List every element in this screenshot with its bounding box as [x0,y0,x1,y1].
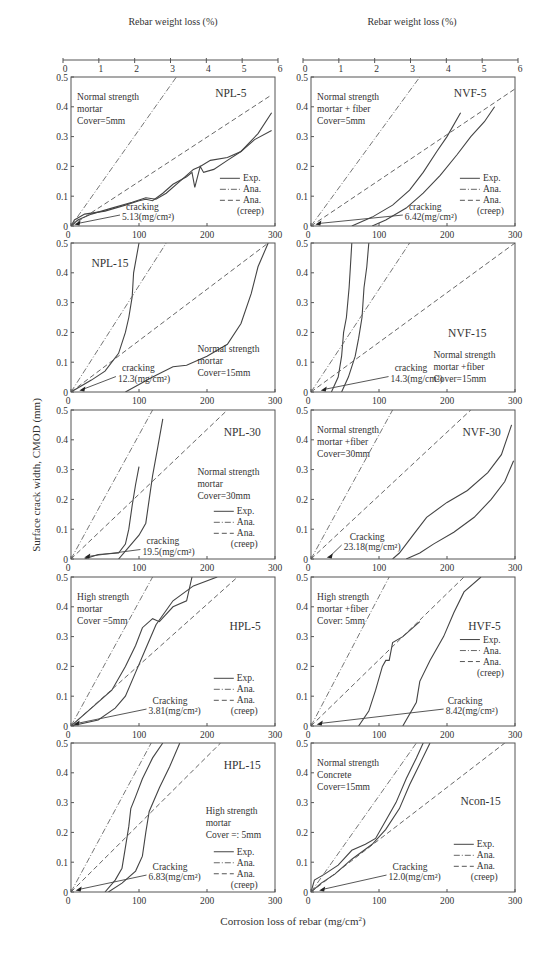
panel-description-line: Cover=5mm [317,116,366,126]
x-tick-label: 300 [268,730,283,740]
cracking-value: 3.81(mg/cm²) [149,706,201,717]
top-axis-tick-label: 6 [278,64,283,74]
x-tick-label: 100 [372,230,387,240]
panel-title: HPL-5 [229,620,261,632]
cracking-label: cracking [409,202,442,212]
x-tick-label: 300 [508,563,523,573]
panel-description-line: Cover=15mm [317,782,370,792]
y-tick-label: 0.3 [56,632,68,642]
y-tick-label: 0.3 [296,632,308,642]
cracking-arrow-line [77,215,120,223]
legend-label: (creep) [237,206,264,217]
legend-label: (creep) [231,706,258,717]
cracking-arrow-line [320,709,444,723]
panel-title: NPL-15 [91,257,128,269]
x-tick-label: 200 [440,730,455,740]
cracking-arrow-head [321,387,327,392]
y-tick-label: 0.1 [296,692,308,702]
x-axis-label-main: Corrosion loss of rebar (mg/cm [220,915,359,928]
y-tick-label: 0.5 [296,739,308,749]
y-tick-label: 0.2 [296,328,308,338]
top-axis-label-left: Rebar weight loss (%) [128,16,217,28]
legend-label: Ana. [483,646,501,656]
legend-label: Exp. [483,635,501,645]
legend-label: Exp. [237,673,255,683]
cracking-label: Cracking [448,696,483,706]
series-ana-line [71,743,151,892]
panel-title: NPL-30 [224,426,261,438]
cracking-value: 6.42(mg/cm²) [405,212,457,223]
panel-description-line: Cover=30mm [317,449,370,459]
series-exp-line [359,622,420,726]
series-exp-line [331,243,351,392]
panel-description-line: Normal strength [317,425,379,435]
panel-description-line: Normal strength [317,92,379,102]
x-tick-label: 200 [440,230,455,240]
panel-description-line: Normal strength [317,758,379,768]
x-tick-label: 300 [268,563,283,573]
legend-label: Ana. [237,528,255,538]
x-tick-label: 300 [508,230,523,240]
panel-nvf-5: 00.10.20.30.40.501002003000123456NVF-5No… [296,58,523,240]
y-tick-label: 0.3 [56,132,68,142]
cracking-arrow-head [319,887,325,892]
y-tick-label: 0.4 [296,102,308,112]
y-tick-label: 0.3 [56,298,68,308]
y-tick-label: 0.4 [56,102,68,112]
cracking-label: cracking [126,202,159,212]
y-tick-label: 0.5 [296,73,308,83]
y-tick-label: 0.4 [296,768,308,778]
figure: Rebar weight loss (%) Rebar weight loss … [0,0,545,958]
x-tick-label: 200 [440,896,455,906]
panel-description-line: Normal strength [433,350,495,360]
panel-description-line: Cover=15mm [197,368,250,378]
top-axis-tick-label: 0 [303,64,308,74]
x-tick-label: 0 [66,563,71,573]
x-tick-label: 100 [132,230,147,240]
legend-label: (creep) [477,668,504,679]
panel-hvf-5: 00.10.20.30.40.50100200300HVF-5High stre… [296,573,522,741]
panel-description-line: Cover =: 5mm [206,830,262,840]
y-tick-label: 0.2 [56,162,68,172]
legend-label: Exp. [477,839,495,849]
panel-npl-30: 00.10.20.30.40.50100200300NPL-30Normal s… [56,406,282,574]
cracking-label: Cracking [153,862,188,872]
y-tick-label: 0.5 [296,406,308,416]
panel-description-line: High strength [77,592,129,602]
legend-label: Exp. [237,847,255,857]
panel-title: NPL-5 [215,87,247,99]
chart-panels: 00.10.20.30.40.501002003000123456NPL-5No… [56,58,523,906]
x-tick-label: 100 [132,563,147,573]
y-tick-label: 0.5 [296,573,308,583]
panel-title: NVF-5 [454,87,487,99]
legend-label: Exp. [237,506,255,516]
legend-label: Ana. [237,517,255,527]
cracking-value: 19.5(mg/cm²) [142,547,194,558]
cracking-label: Cracking [393,862,428,872]
y-tick-label: 0.2 [56,662,68,672]
series-group [71,743,221,892]
x-axis-label: Corrosion loss of rebar (mg/cm2) [220,915,366,928]
panel-npl-15: 00.10.20.30.40.50100200300NPL-15Normal s… [56,239,282,407]
panel-hpl-5: 00.10.20.30.40.50100200300HPL-5High stre… [56,573,282,741]
cracking-label: Cracking [350,532,385,542]
legend-label: Ana. [477,861,495,871]
y-tick-label: 0.5 [56,406,68,416]
panel-npl-5: 00.10.20.30.40.501002003000123456NPL-5No… [56,58,283,240]
panel-title: Ncon-15 [460,795,500,807]
top-axis-tick-label: 5 [242,64,247,74]
x-tick-label: 100 [372,563,387,573]
legend-label: Exp. [483,173,501,183]
x-tick-label: 300 [508,730,523,740]
y-tick-label: 0.1 [296,525,308,535]
top-axis-tick-label: 1 [98,64,103,74]
panel-description-line: High strength [206,806,258,816]
top-axis-tick-label: 0 [63,64,68,74]
panel-description-line: mortar [197,356,223,366]
legend-label: Ana. [237,684,255,694]
y-tick-label: 0.2 [296,662,308,672]
series-creep-line [71,743,221,892]
panel-description-line: Normal strength [197,467,259,477]
top-axis-tick-label: 5 [482,64,487,74]
legend-label: Ana. [243,184,261,194]
